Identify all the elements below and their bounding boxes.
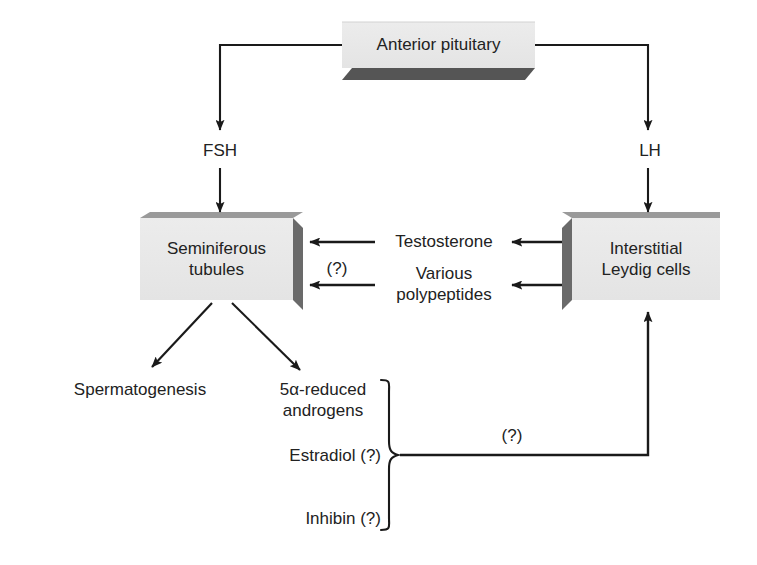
leydig-feedback-question-label: (?) — [490, 425, 534, 446]
connector-seminiferous-to-spermatogenesis — [152, 303, 212, 367]
seminiferous-box-shape — [140, 212, 303, 310]
estradiol-label: Estradiol (?) — [253, 445, 381, 466]
connector-pituitary-to-lh — [535, 45, 648, 130]
androgens-label-line1: 5α-reduced — [265, 379, 381, 400]
inhibin-label: Inhibin (?) — [253, 508, 381, 529]
tubule-feedback-question-label: (?) — [315, 258, 359, 279]
connector-seminiferous-to-androgens — [232, 303, 300, 370]
connector-pituitary-to-fsh — [220, 45, 342, 130]
diagram-canvas: Anterior pituitary Seminiferous tubules … — [0, 0, 757, 565]
various-polypeptides-label-line2: polypeptides — [378, 284, 510, 305]
grouping-brace — [381, 380, 398, 530]
androgens-label-line2: androgens — [265, 400, 381, 421]
various-polypeptides-label-line1: Various — [378, 263, 510, 284]
spermatogenesis-label: Spermatogenesis — [40, 379, 240, 400]
leydig-box-shape — [562, 212, 720, 310]
fsh-label: FSH — [180, 140, 260, 161]
pituitary-box-shape — [342, 22, 535, 80]
lh-label: LH — [610, 140, 690, 161]
testosterone-label: Testosterone — [378, 231, 510, 252]
